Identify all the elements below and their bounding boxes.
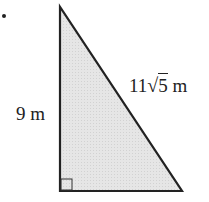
triangle-shape: [60, 7, 182, 191]
vertical-leg-label: 9 m: [16, 104, 45, 123]
hypotenuse-radicand: 5: [158, 73, 168, 96]
hypotenuse-coefficient: 11: [129, 75, 147, 96]
radical-icon: √: [147, 74, 158, 96]
hypotenuse-unit: m: [168, 75, 188, 96]
hypotenuse-label: 11√5 m: [129, 75, 187, 95]
triangle-figure: [0, 0, 209, 202]
